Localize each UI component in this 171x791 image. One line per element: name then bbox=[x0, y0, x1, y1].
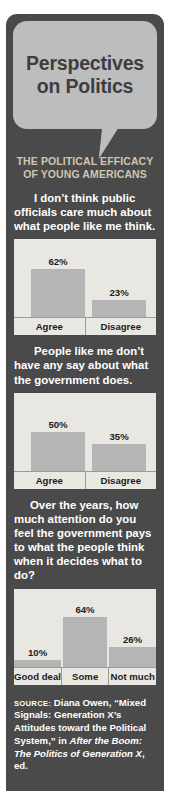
chart-axis-2: Agree Disagree bbox=[14, 471, 156, 489]
chart-axis-3: Good deal Some Not much bbox=[14, 667, 156, 685]
page-title: Perspectives on Politics bbox=[13, 52, 157, 98]
bar-chart-3: 10% 64% 26% Good deal Some Not much bbox=[14, 589, 156, 685]
infographic-panel: Perspectives on Politics THE POLITICAL E… bbox=[6, 14, 164, 791]
bar-value-not-much-3: 26% bbox=[109, 634, 156, 645]
axis-label-disagree-2: Disagree bbox=[85, 472, 157, 489]
bar-agree-1 bbox=[31, 269, 85, 318]
source-label: SOURCE: bbox=[14, 699, 51, 708]
bar-disagree-1 bbox=[92, 300, 146, 318]
question-text-1: I don’t think public officials care much… bbox=[14, 191, 156, 233]
bar-value-disagree-1: 23% bbox=[92, 287, 146, 298]
speech-bubble-tail-icon bbox=[99, 117, 125, 159]
bar-chart-1: 62% 23% Agree Disagree bbox=[14, 239, 156, 335]
question-text-2: People like me don’t have any say about … bbox=[14, 344, 156, 386]
axis-label-disagree-1: Disagree bbox=[85, 318, 157, 335]
bar-some-3 bbox=[63, 617, 107, 668]
bar-not-much-3 bbox=[109, 647, 156, 668]
bar-value-agree-1: 62% bbox=[31, 256, 85, 267]
header-speech-bubble: Perspectives on Politics bbox=[13, 21, 157, 151]
bar-agree-2 bbox=[31, 432, 85, 472]
axis-label-agree-2: Agree bbox=[14, 472, 85, 489]
chart-plot-area-1: 62% 23% bbox=[14, 239, 156, 318]
bar-chart-2: 50% 35% Agree Disagree bbox=[14, 393, 156, 489]
bar-value-good-deal-3: 10% bbox=[14, 647, 61, 658]
source-citation: SOURCE: Diana Owen, “Mixed Signals: Gene… bbox=[14, 697, 156, 774]
chart-axis-1: Agree Disagree bbox=[14, 317, 156, 335]
question-text-3: Over the years, how much attention do yo… bbox=[14, 498, 156, 583]
section-subtitle: THE POLITICAL EFFICACY OF YOUNG AMERICAN… bbox=[14, 155, 156, 182]
axis-label-agree-1: Agree bbox=[14, 318, 85, 335]
speech-bubble-body: Perspectives on Politics bbox=[13, 21, 157, 129]
axis-label-not-much-3: Not much bbox=[108, 668, 156, 685]
bar-value-disagree-2: 35% bbox=[92, 431, 146, 442]
chart-plot-area-2: 50% 35% bbox=[14, 393, 156, 472]
bar-disagree-2 bbox=[92, 444, 146, 472]
bar-value-agree-2: 50% bbox=[31, 419, 85, 430]
chart-plot-area-3: 10% 64% 26% bbox=[14, 589, 156, 668]
axis-label-good-deal-3: Good deal bbox=[14, 668, 61, 685]
bar-value-some-3: 64% bbox=[63, 604, 107, 615]
axis-label-some-3: Some bbox=[61, 668, 109, 685]
